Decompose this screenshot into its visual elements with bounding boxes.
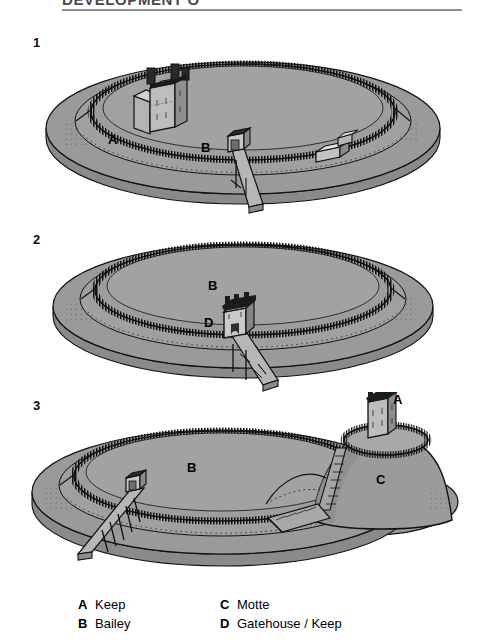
diagram-ringwork-with-keep: A B [0, 28, 481, 228]
label-bailey-B-diagram-1: B [201, 140, 210, 155]
legend-item-gatehouse: D Gatehouse / Keep [220, 616, 342, 635]
legend-item-keep: A Keep [78, 597, 130, 616]
legend-key-C: C [220, 597, 237, 612]
diagram-ringwork-with-gatehouse: B D [0, 228, 481, 398]
legend-key-D: D [220, 616, 237, 631]
legend-item-bailey: B Bailey [78, 616, 130, 635]
legend-text-gatehouse: Gatehouse / Keep [237, 616, 342, 631]
label-bailey-B-diagram-3: B [187, 460, 196, 475]
figure-page: DEVELOPMENT O 1 2 3 [0, 0, 481, 640]
legend-key-A: A [78, 597, 95, 612]
legend-text-motte: Motte [237, 597, 270, 612]
legend-column-two: C Motte D Gatehouse / Keep [220, 597, 342, 635]
label-keep-A-diagram-1: A [108, 132, 118, 147]
legend-text-bailey: Bailey [95, 616, 130, 631]
legend-text-keep: Keep [95, 597, 125, 612]
legend-item-motte: C Motte [220, 597, 342, 616]
legend-column-one: A Keep B Bailey [78, 597, 130, 635]
legend-key-B: B [78, 616, 95, 631]
label-gatehouse-D-diagram-2: D [204, 315, 213, 330]
header-divider [62, 9, 462, 11]
page-title: DEVELOPMENT O [62, 0, 200, 8]
label-motte-C-diagram-3: C [376, 472, 386, 487]
label-keep-A-diagram-3: A [393, 392, 403, 407]
label-bailey-B-diagram-2: B [208, 278, 217, 293]
diagram-motte-and-bailey: A B C [0, 392, 481, 592]
